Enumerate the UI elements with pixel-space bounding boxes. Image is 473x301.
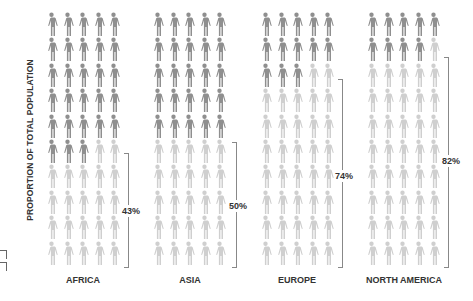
- person-icon: [411, 12, 426, 36]
- person-icon: [411, 164, 426, 188]
- person-icon: [150, 164, 165, 188]
- person-icon: [166, 164, 181, 188]
- person-icon: [197, 139, 212, 163]
- person-icon: [364, 88, 379, 112]
- person-icon: [258, 164, 273, 188]
- person-icon: [212, 215, 227, 239]
- person-icon: [44, 12, 59, 36]
- person-icon: [181, 139, 196, 163]
- person-icon: [411, 190, 426, 214]
- person-icon: [364, 164, 379, 188]
- person-icon: [289, 139, 304, 163]
- person-icon: [364, 12, 379, 36]
- person-icon: [426, 88, 441, 112]
- person-icon: [106, 37, 121, 61]
- person-icon: [212, 164, 227, 188]
- person-icon: [197, 241, 212, 265]
- person-icon: [395, 12, 410, 36]
- person-icon: [212, 37, 227, 61]
- person-icon: [258, 215, 273, 239]
- person-icon: [395, 114, 410, 138]
- person-icon: [426, 164, 441, 188]
- person-icon: [305, 63, 320, 87]
- person-icon: [320, 215, 335, 239]
- person-icon: [181, 190, 196, 214]
- person-icon: [91, 241, 106, 265]
- person-icon: [166, 63, 181, 87]
- person-icon: [426, 37, 441, 61]
- person-icon: [150, 63, 165, 87]
- person-icon: [258, 12, 273, 36]
- person-icon: [305, 139, 320, 163]
- person-icon: [75, 164, 90, 188]
- person-icon: [364, 63, 379, 87]
- pct-label-africa: 43%: [122, 205, 140, 217]
- person-icon: [166, 114, 181, 138]
- person-icon: [106, 241, 121, 265]
- y-axis-label: PROPORTION OF TOTAL POPULATION: [25, 59, 35, 221]
- person-icon: [181, 215, 196, 239]
- person-icon: [320, 114, 335, 138]
- person-icon: [305, 215, 320, 239]
- person-icon: [274, 114, 289, 138]
- category-label-europe: EUROPE: [278, 275, 316, 285]
- person-icon: [426, 63, 441, 87]
- person-icon: [320, 190, 335, 214]
- person-icon: [212, 114, 227, 138]
- person-icon: [305, 190, 320, 214]
- person-icon: [305, 12, 320, 36]
- person-icon: [320, 63, 335, 87]
- person-icon: [305, 164, 320, 188]
- person-icon: [258, 37, 273, 61]
- person-icon: [411, 139, 426, 163]
- person-icon: [212, 241, 227, 265]
- person-icon: [364, 139, 379, 163]
- person-icon: [364, 241, 379, 265]
- person-icon: [320, 164, 335, 188]
- person-icon: [212, 63, 227, 87]
- person-icon: [380, 190, 395, 214]
- cropped-edge-mark: [0, 250, 7, 259]
- person-icon: [60, 190, 75, 214]
- person-icon: [166, 241, 181, 265]
- pct-label-north-america: 82%: [442, 155, 460, 167]
- person-icon: [380, 139, 395, 163]
- category-label-africa: AFRICA: [66, 275, 100, 285]
- person-icon: [258, 114, 273, 138]
- group-asia: [150, 12, 230, 268]
- person-icon: [289, 241, 304, 265]
- person-icon: [75, 190, 90, 214]
- person-icon: [44, 139, 59, 163]
- person-icon: [364, 190, 379, 214]
- person-icon: [75, 215, 90, 239]
- person-icon: [411, 37, 426, 61]
- person-icon: [166, 88, 181, 112]
- person-icon: [60, 241, 75, 265]
- pct-label-asia: 50%: [229, 200, 247, 212]
- group-europe: [258, 12, 338, 268]
- person-icon: [395, 190, 410, 214]
- person-icon: [411, 241, 426, 265]
- person-icon: [305, 37, 320, 61]
- person-icon: [274, 215, 289, 239]
- person-icon: [305, 114, 320, 138]
- person-icon: [150, 241, 165, 265]
- person-icon: [380, 215, 395, 239]
- person-icon: [181, 241, 196, 265]
- person-icon: [289, 12, 304, 36]
- person-icon: [181, 88, 196, 112]
- person-icon: [380, 241, 395, 265]
- person-icon: [44, 190, 59, 214]
- person-icon: [44, 241, 59, 265]
- person-icon: [75, 241, 90, 265]
- person-icon: [305, 88, 320, 112]
- person-icon: [166, 12, 181, 36]
- person-icon: [395, 241, 410, 265]
- person-icon: [60, 114, 75, 138]
- group-africa: [44, 12, 124, 268]
- person-icon: [426, 241, 441, 265]
- person-icon: [380, 164, 395, 188]
- person-icon: [364, 215, 379, 239]
- person-icon: [91, 139, 106, 163]
- person-icon: [426, 114, 441, 138]
